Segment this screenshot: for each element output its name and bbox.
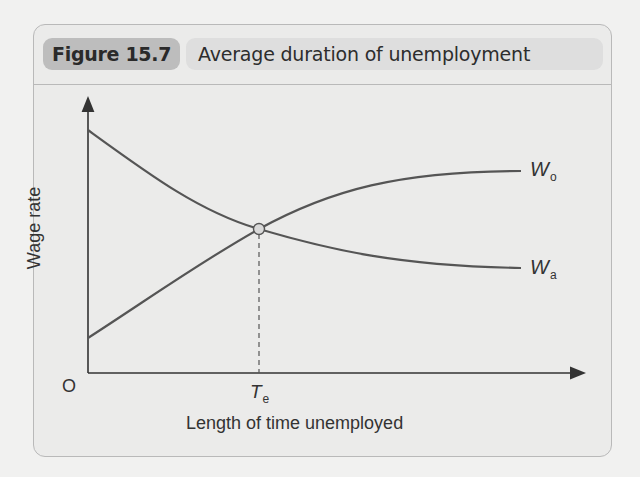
x-axis-label: Length of time unemployed [186, 413, 403, 434]
wo-label: Wo [530, 158, 557, 184]
te-tick-label: Te [250, 381, 269, 406]
origin-label: O [62, 376, 76, 397]
chart-plot [0, 0, 640, 477]
intersection-marker [254, 224, 265, 235]
wa-curve [88, 130, 521, 268]
wo-curve [88, 171, 521, 338]
y-axis-label: Wage rate [24, 187, 45, 269]
wa-label: Wa [530, 256, 557, 282]
